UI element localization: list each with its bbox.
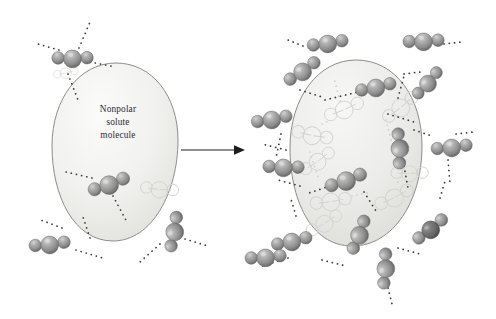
solute-label-line-2: solute (106, 117, 129, 127)
solute-label-line-1: Nonpolar (100, 104, 137, 114)
solute-label-line-3: molecule (100, 130, 135, 140)
hydrophobic-effect-figure: Nonpolar solute molecule (0, 0, 496, 319)
diagram-canvas: Nonpolar solute molecule (0, 0, 496, 319)
